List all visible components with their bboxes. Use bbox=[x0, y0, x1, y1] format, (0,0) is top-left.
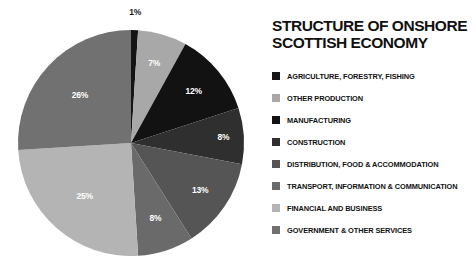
pie-slices-group bbox=[18, 30, 244, 256]
legend-item[interactable]: DISTRIBUTION, FOOD & ACCOMMODATION bbox=[272, 153, 470, 175]
pie-slice-label: 26% bbox=[72, 90, 89, 100]
legend-swatch-icon bbox=[272, 94, 280, 102]
legend-item-label: CONSTRUCTION bbox=[287, 138, 345, 147]
legend-item[interactable]: CONSTRUCTION bbox=[272, 131, 470, 153]
legend-item-label: TRANSPORT, INFORMATION & COMMUNICATION bbox=[287, 182, 457, 191]
legend-item[interactable]: GOVERNMENT & OTHER SERVICES bbox=[272, 219, 470, 241]
legend-item-label: MANUFACTURING bbox=[287, 116, 351, 125]
pie-slice-label: 1% bbox=[129, 7, 142, 17]
legend-item[interactable]: AGRICULTURE, FORESTRY, FISHING bbox=[272, 65, 470, 87]
legend-swatch-icon bbox=[272, 160, 280, 168]
legend-panel: STRUCTURE OF ONSHORE SCOTTISH ECONOMY AG… bbox=[262, 0, 476, 275]
chart-page: 1%7%12%8%13%8%25%26% STRUCTURE OF ONSHOR… bbox=[0, 0, 476, 275]
pie-slice-label: 8% bbox=[149, 213, 162, 223]
pie-slice-label: 8% bbox=[218, 132, 231, 142]
chart-title: STRUCTURE OF ONSHORE SCOTTISH ECONOMY bbox=[272, 18, 470, 51]
legend-swatch-icon bbox=[272, 72, 280, 80]
pie-slice-label: 12% bbox=[185, 86, 202, 96]
legend-item-label: GOVERNMENT & OTHER SERVICES bbox=[287, 226, 412, 235]
legend-item[interactable]: FINANCIAL AND BUSINESS bbox=[272, 197, 470, 219]
legend-item[interactable]: TRANSPORT, INFORMATION & COMMUNICATION bbox=[272, 175, 470, 197]
pie-chart-svg: 1%7%12%8%13%8%25%26% bbox=[0, 0, 262, 275]
legend-item-label: FINANCIAL AND BUSINESS bbox=[287, 204, 382, 213]
legend-list: AGRICULTURE, FORESTRY, FISHINGOTHER PROD… bbox=[272, 65, 470, 241]
pie-slice-label: 25% bbox=[76, 191, 93, 201]
pie-slice-label: 13% bbox=[192, 185, 209, 195]
legend-swatch-icon bbox=[272, 182, 280, 190]
legend-item-label: AGRICULTURE, FORESTRY, FISHING bbox=[287, 72, 415, 81]
legend-swatch-icon bbox=[272, 138, 280, 146]
legend-item[interactable]: MANUFACTURING bbox=[272, 109, 470, 131]
legend-swatch-icon bbox=[272, 116, 280, 124]
legend-item-label: DISTRIBUTION, FOOD & ACCOMMODATION bbox=[287, 160, 438, 169]
pie-slice-label: 7% bbox=[148, 58, 161, 68]
legend-item[interactable]: OTHER PRODUCTION bbox=[272, 87, 470, 109]
legend-swatch-icon bbox=[272, 226, 280, 234]
pie-chart-area: 1%7%12%8%13%8%25%26% bbox=[0, 0, 262, 275]
legend-swatch-icon bbox=[272, 204, 280, 212]
legend-item-label: OTHER PRODUCTION bbox=[287, 94, 363, 103]
